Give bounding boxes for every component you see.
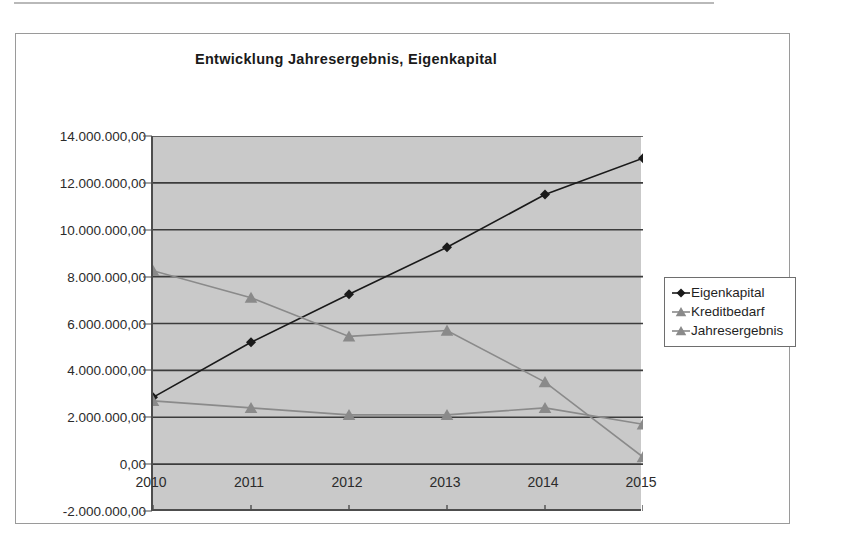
diamond-marker-icon: [540, 190, 550, 200]
series-line: [153, 401, 643, 424]
chart-frame: Entwicklung Jahresergebnis, Eigenkapital…: [15, 33, 790, 524]
series-line: [153, 271, 643, 457]
y-axis-tick-label: 10.000.000,00: [22, 222, 146, 237]
legend-item[interactable]: Jahresergebnis: [671, 321, 789, 340]
legend-item[interactable]: Eigenkapital: [671, 283, 789, 302]
y-axis: -2.000.000,000,002.000.000,004.000.000,0…: [16, 136, 146, 511]
series-line: [153, 158, 643, 397]
legend-item[interactable]: Kreditbedarf: [671, 302, 789, 321]
x-axis-tick-label: 2015: [625, 474, 656, 490]
series-eigenkapital: [153, 153, 643, 402]
plot-area: [151, 136, 641, 511]
y-axis-tick-label: 4.000.000,00: [22, 363, 146, 378]
chart-legend: EigenkapitalKreditbedarfJahresergebnis: [664, 277, 796, 347]
y-axis-tick-label: 6.000.000,00: [22, 316, 146, 331]
legend-item-label: Jahresergebnis: [691, 323, 783, 338]
plot-svg: [153, 136, 643, 511]
y-axis-tick-label: 0,00: [22, 457, 146, 472]
diamond-marker-icon: [246, 337, 256, 347]
triangle-marker-icon: [539, 376, 552, 387]
x-axis-tick-label: 2010: [135, 474, 166, 490]
diamond-marker-icon: [677, 288, 686, 297]
diamond-marker-icon: [638, 153, 643, 163]
triangle-marker-icon: [153, 265, 159, 276]
y-axis-tick-label: 2.000.000,00: [22, 410, 146, 425]
x-axis-tick-label: 2012: [331, 474, 362, 490]
legend-item-label: Kreditbedarf: [691, 304, 765, 319]
y-axis-tick-label: 14.000.000,00: [22, 129, 146, 144]
y-axis-tick-label: 8.000.000,00: [22, 269, 146, 284]
diamond-marker-icon: [442, 242, 452, 252]
page-scan-rule: [14, 2, 714, 4]
legend-item-label: Eigenkapital: [691, 285, 765, 300]
x-axis-tick-label: 2013: [429, 474, 460, 490]
diamond-marker-icon: [344, 289, 354, 299]
x-axis-tick-label: 2014: [527, 474, 558, 490]
triangle-marker-icon: [671, 305, 691, 319]
y-axis-tick-label: -2.000.000,00: [22, 504, 146, 519]
chart-title: Entwicklung Jahresergebnis, Eigenkapital: [16, 51, 676, 67]
diamond-marker-icon: [671, 286, 691, 300]
series-kreditbedarf: [153, 265, 643, 462]
triangle-marker-icon: [671, 324, 691, 338]
y-axis-tick-label: 12.000.000,00: [22, 175, 146, 190]
x-axis-tick-label: 2011: [234, 474, 264, 490]
x-axis: 201020112012201320142015: [151, 474, 651, 504]
